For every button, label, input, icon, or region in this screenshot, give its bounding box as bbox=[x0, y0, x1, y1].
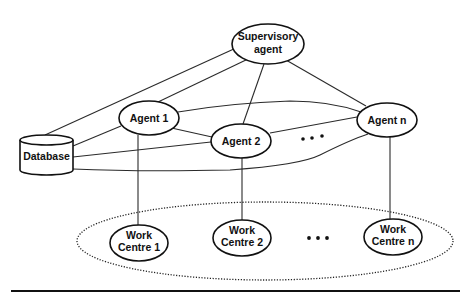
node-work-centre-n: Work Centre n bbox=[364, 219, 422, 255]
edge-supervisory-agentn bbox=[286, 60, 366, 106]
database-label: Database bbox=[23, 150, 70, 162]
work-centre-n-label-line1: Work bbox=[380, 223, 406, 235]
ellipsis-dot bbox=[307, 236, 311, 240]
ellipsis-dot bbox=[320, 134, 324, 138]
agents-ellipsis bbox=[301, 134, 324, 141]
work-centre-1-label-line1: Work bbox=[126, 229, 152, 241]
work-centre-2-label-line1: Work bbox=[229, 224, 255, 236]
node-agent-n: Agent n bbox=[357, 103, 417, 137]
supervisory-agent-label-line2: agent bbox=[254, 43, 283, 55]
database-cylinder-top bbox=[20, 135, 73, 145]
ellipsis-dot bbox=[301, 137, 305, 141]
work-centre-1-label-line2: Centre 1 bbox=[118, 241, 160, 253]
edge-supervisory-agent1 bbox=[158, 59, 248, 102]
ellipsis-dot bbox=[325, 236, 329, 240]
edge-database-agent2 bbox=[73, 142, 211, 157]
supervisory-agent-label-line1: Supervisory bbox=[238, 30, 299, 42]
node-agent-1: Agent 1 bbox=[119, 101, 179, 135]
node-work-centre-2: Work Centre 2 bbox=[213, 220, 271, 256]
multi-agent-diagram: Supervisory agent Agent 1 Agent 2 Agent … bbox=[0, 0, 469, 293]
work-centre-2-label-line2: Centre 2 bbox=[221, 236, 263, 248]
ellipsis-dot bbox=[310, 136, 314, 140]
work-centres-ellipsis bbox=[307, 236, 329, 240]
agent-1-label: Agent 1 bbox=[130, 112, 169, 124]
edge-agent1-agentn bbox=[178, 101, 361, 112]
node-agent-2: Agent 2 bbox=[211, 124, 271, 158]
work-centre-n-label-line2: Centre n bbox=[372, 235, 415, 247]
node-work-centre-1: Work Centre 1 bbox=[110, 225, 168, 261]
ellipsis-dot bbox=[316, 236, 320, 240]
node-supervisory-agent: Supervisory agent bbox=[232, 24, 304, 64]
agent-2-label: Agent 2 bbox=[222, 135, 261, 147]
edge-agent2-agentn bbox=[270, 117, 357, 133]
agent-n-label: Agent n bbox=[367, 114, 406, 126]
edge-database-agent1 bbox=[73, 126, 121, 146]
node-database: Database bbox=[20, 135, 73, 175]
edge-supervisory-agent2 bbox=[243, 64, 264, 124]
